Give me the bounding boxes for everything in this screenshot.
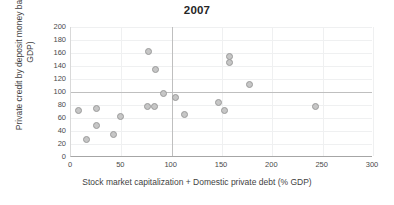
- data-point: [152, 66, 159, 73]
- data-point: [144, 103, 151, 110]
- y-tick-label: 80: [26, 101, 66, 109]
- data-point: [151, 103, 158, 110]
- data-point: [145, 48, 152, 55]
- x-tick-label: 50: [100, 160, 140, 169]
- y-tick-label: 120: [26, 75, 66, 83]
- y-tick-label: 20: [26, 140, 66, 148]
- y-tick-label: 140: [26, 62, 66, 70]
- data-point: [110, 131, 117, 138]
- chart-title: 2007: [0, 4, 394, 16]
- reference-line-horizontal: [71, 92, 372, 93]
- data-point: [75, 107, 82, 114]
- y-tick-label: 180: [26, 36, 66, 44]
- plot-area: [70, 27, 372, 157]
- y-tick-label: 160: [26, 49, 66, 57]
- x-axis-tick-labels: 050100150200250300: [70, 160, 372, 172]
- y-tick-label: 40: [26, 127, 66, 135]
- data-point: [312, 103, 319, 110]
- data-point: [221, 107, 228, 114]
- data-point: [226, 59, 233, 66]
- data-point: [83, 136, 90, 143]
- y-axis-tick-labels: 020406080100120140160180200: [24, 27, 66, 157]
- y-tick-label: 100: [26, 88, 66, 96]
- x-tick-label: 250: [302, 160, 342, 169]
- gridline-vertical: [373, 27, 374, 156]
- data-point: [172, 94, 179, 101]
- x-tick-label: 300: [352, 160, 392, 169]
- x-tick-label: 0: [50, 160, 90, 169]
- x-tick-label: 200: [251, 160, 291, 169]
- data-point: [160, 90, 167, 97]
- y-tick-label: 60: [26, 114, 66, 122]
- y-tick-label: 200: [26, 23, 66, 31]
- reference-line-vertical: [172, 27, 173, 156]
- data-point: [117, 113, 124, 120]
- x-axis-title: Stock market capitalization + Domestic p…: [0, 177, 394, 188]
- scatter-chart: 2007 Private credit by deposit money ban…: [0, 0, 394, 205]
- x-tick-label: 150: [201, 160, 241, 169]
- data-point: [93, 105, 100, 112]
- x-tick-label: 100: [151, 160, 191, 169]
- data-point: [246, 81, 253, 88]
- data-point: [93, 122, 100, 129]
